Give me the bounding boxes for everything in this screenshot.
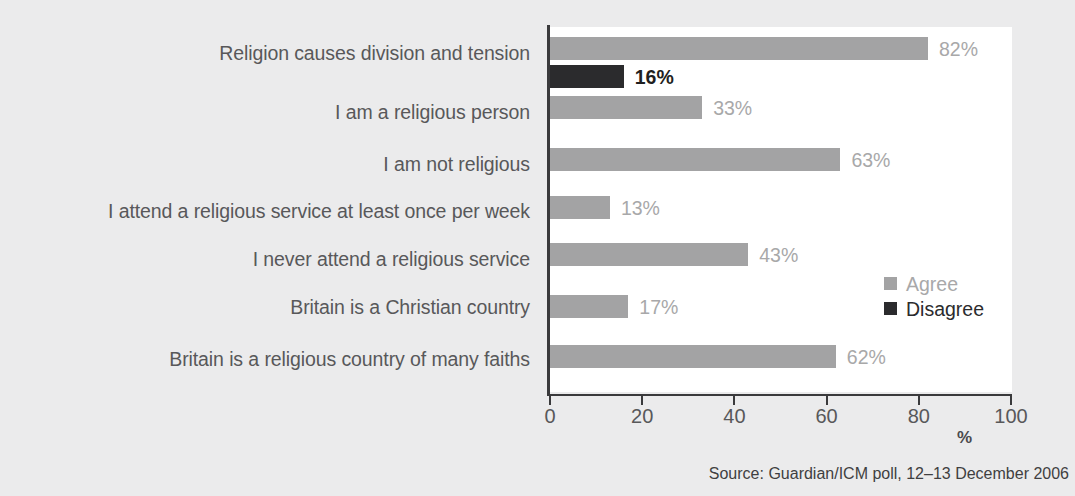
x-axis-tick-label: 60	[815, 406, 837, 426]
legend-item-disagree[interactable]: Disagree	[884, 297, 1024, 322]
bar-agree[interactable]	[550, 243, 748, 266]
source-note: Source: Guardian/ICM poll, 12–13 Decembe…	[709, 466, 1069, 482]
bar-value-label: 62%	[847, 348, 886, 368]
bar-value-label: 16%	[635, 68, 674, 88]
bar-value-label: 82%	[939, 40, 978, 60]
x-axis-tick-label: 20	[631, 406, 653, 426]
bar-agree[interactable]	[550, 345, 836, 368]
x-axis-tick-label: 100	[994, 406, 1027, 426]
bar-value-label: 63%	[851, 151, 890, 171]
bar-value-label: 33%	[713, 99, 752, 119]
legend-label-disagree: Disagree	[906, 297, 984, 321]
x-axis-unit-label: %	[957, 429, 972, 446]
category-label: I never attend a religious service	[253, 250, 530, 270]
bar-value-label: 43%	[759, 246, 798, 266]
x-axis-tick-label: 80	[908, 406, 930, 426]
bar-agree[interactable]	[550, 148, 840, 171]
x-axis-tick-label: 40	[723, 406, 745, 426]
x-axis-tick	[826, 396, 828, 405]
x-axis-tick-label: 0	[544, 406, 555, 426]
category-axis-labels: Religion causes division and tensionI am…	[0, 27, 540, 392]
bar-value-label: 17%	[639, 298, 678, 318]
bar-agree[interactable]	[550, 96, 702, 119]
category-label: Religion causes division and tension	[219, 44, 530, 64]
x-axis-tick	[1010, 396, 1012, 405]
bar-agree[interactable]	[550, 37, 928, 60]
bar-agree[interactable]	[550, 295, 628, 318]
legend-item-agree[interactable]: Agree	[884, 272, 1024, 297]
x-axis-tick	[641, 396, 643, 405]
legend-swatch-disagree-icon	[884, 302, 897, 315]
x-axis-tick	[733, 396, 735, 405]
category-label: Britain is a Christian country	[290, 298, 530, 318]
category-label: I am a religious person	[335, 103, 530, 123]
chart-figure: Religion causes division and tensionI am…	[0, 0, 1075, 496]
y-axis-line	[547, 25, 550, 396]
category-label: Britain is a religious country of many f…	[169, 350, 530, 370]
x-axis-tick	[918, 396, 920, 405]
legend-label-agree: Agree	[906, 272, 958, 296]
bar-value-label: 13%	[621, 199, 660, 219]
x-axis-line	[549, 394, 1012, 396]
x-axis-tick	[549, 396, 551, 405]
category-label: I am not religious	[383, 155, 530, 175]
chart-legend: Agree Disagree	[884, 272, 1024, 322]
bar-agree[interactable]	[550, 196, 610, 219]
category-label: I attend a religious service at least on…	[108, 202, 530, 222]
bar-disagree[interactable]	[550, 65, 624, 88]
legend-swatch-agree-icon	[884, 277, 897, 290]
